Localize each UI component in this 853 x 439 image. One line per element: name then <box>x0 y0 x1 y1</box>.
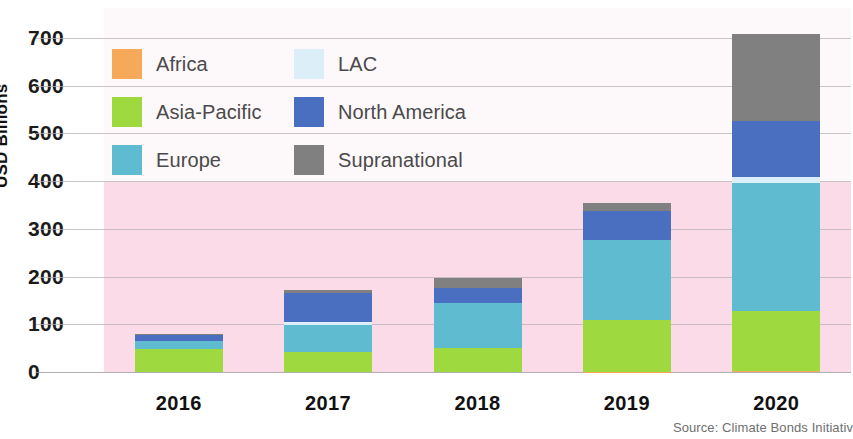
y-axis-title: USD Billions <box>0 84 12 188</box>
legend-swatch-icon-europe <box>112 145 142 175</box>
source-note: Source: Climate Bonds Initiativ <box>673 420 853 435</box>
bar-segment-2017-supranational[interactable] <box>284 290 372 292</box>
bar-segment-2017-europe[interactable] <box>284 325 372 352</box>
legend-swatch-icon-north-america <box>294 97 324 127</box>
legend-label: North America <box>338 101 466 124</box>
x-tick-2019: 2019 <box>552 392 701 415</box>
bar-segment-2020-north-america[interactable] <box>732 121 820 178</box>
x-tick-2018: 2018 <box>403 392 552 415</box>
legend-swatch-icon-lac <box>294 49 324 79</box>
bar-segment-2016-europe[interactable] <box>135 341 223 350</box>
bar-segment-2017-asia-pacific[interactable] <box>284 352 372 372</box>
bar-segment-2020-supranational[interactable] <box>732 34 820 120</box>
bar-segment-2019-europe[interactable] <box>583 240 671 320</box>
x-tick-2017: 2017 <box>253 392 402 415</box>
legend-label: LAC <box>338 53 377 76</box>
bar-segment-2019-supranational[interactable] <box>583 203 671 211</box>
legend-item-africa[interactable]: Africa <box>112 49 280 79</box>
bar-segment-2020-africa[interactable] <box>732 371 820 372</box>
bar-segment-2018-europe[interactable] <box>434 303 522 348</box>
bar-segment-2016-asia-pacific[interactable] <box>135 349 223 372</box>
bar-2019[interactable] <box>583 8 671 372</box>
bar-segment-2020-lac[interactable] <box>732 177 820 183</box>
bar-segment-2018-asia-pacific[interactable] <box>434 348 522 372</box>
legend-swatch-icon-asia-pacific <box>112 97 142 127</box>
x-tick-2016: 2016 <box>104 392 253 415</box>
gridline-0 <box>36 372 851 373</box>
legend-item-asia-pacific[interactable]: Asia-Pacific <box>112 97 280 127</box>
legend-label: Africa <box>156 53 208 76</box>
legend-item-europe[interactable]: Europe <box>112 145 280 175</box>
bar-segment-2016-north-america[interactable] <box>135 335 223 341</box>
bar-2020[interactable] <box>732 8 820 372</box>
legend-item-supranational[interactable]: Supranational <box>294 145 462 175</box>
bar-segment-2016-supranational[interactable] <box>135 334 223 335</box>
bar-segment-2018-supranational[interactable] <box>434 278 522 288</box>
legend-item-lac[interactable]: LAC <box>294 49 462 79</box>
bar-segment-2020-asia-pacific[interactable] <box>732 311 820 371</box>
bar-segment-2017-lac[interactable] <box>284 322 372 325</box>
legend-item-north-america[interactable]: North America <box>294 97 462 127</box>
chart-legend: AfricaLACAsia-PacificNorth AmericaEurope… <box>112 40 472 184</box>
legend-swatch-icon-supranational <box>294 145 324 175</box>
legend-label: Asia-Pacific <box>156 101 262 124</box>
bar-segment-2020-europe[interactable] <box>732 183 820 311</box>
legend-swatch-icon-africa <box>112 49 142 79</box>
legend-label: Supranational <box>338 149 463 172</box>
bar-segment-2019-asia-pacific[interactable] <box>583 320 671 372</box>
bar-segment-2019-north-america[interactable] <box>583 211 671 241</box>
bar-segment-2017-north-america[interactable] <box>284 293 372 323</box>
x-tick-2020: 2020 <box>702 392 851 415</box>
legend-label: Europe <box>156 149 221 172</box>
bar-segment-2018-north-america[interactable] <box>434 288 522 304</box>
